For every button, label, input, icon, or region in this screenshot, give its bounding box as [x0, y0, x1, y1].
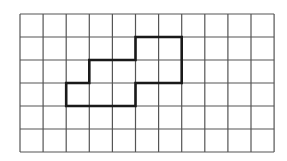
grid-diagram	[0, 0, 287, 161]
bold-outline-shape	[66, 37, 182, 106]
